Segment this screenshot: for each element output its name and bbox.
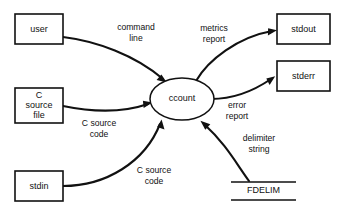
node-stdin[interactable]: stdin xyxy=(15,171,63,201)
node-c-source-file-label-line3: file xyxy=(33,110,45,120)
node-stdout-label: stdout xyxy=(291,24,316,34)
flow-c-source-code-file-label: C source code xyxy=(82,118,117,139)
flow-error-report xyxy=(211,76,275,99)
node-c-source-file-label-line2: source xyxy=(25,100,52,110)
flow-command-line xyxy=(63,37,167,82)
flow-c-source-code-file-label-line2: code xyxy=(90,129,109,139)
node-stdin-label: stdin xyxy=(29,181,48,191)
node-fdelim-label: FDELIM xyxy=(247,185,280,195)
flow-c-source-code-stdin-label-line2: code xyxy=(145,176,164,186)
flow-c-source-code-file xyxy=(63,101,153,111)
flow-command-line-path xyxy=(63,37,163,79)
dfd-diagram: user C source file stdin ccount stdout s… xyxy=(0,0,339,214)
flow-c-source-code-stdin-label-line1: C source xyxy=(137,165,172,175)
flow-delimiter-string-label-line2: string xyxy=(248,144,269,154)
node-user[interactable]: user xyxy=(15,14,63,44)
flow-c-source-code-stdin-label: C source code xyxy=(137,165,172,186)
node-user-label: user xyxy=(30,24,48,34)
flow-error-report-path xyxy=(211,79,271,99)
node-stderr[interactable]: stderr xyxy=(277,61,330,91)
node-ccount-label: ccount xyxy=(169,93,196,103)
flow-metrics-report-label: metrics report xyxy=(200,23,228,44)
flow-metrics-report-arrowhead xyxy=(268,28,277,35)
node-stderr-label: stderr xyxy=(292,71,315,81)
flow-c-source-code-file-label-line1: C source xyxy=(82,118,117,128)
node-ccount[interactable]: ccount xyxy=(150,78,214,120)
flow-error-report-arrowhead xyxy=(266,76,275,85)
node-stdout[interactable]: stdout xyxy=(277,14,330,44)
node-c-source-file[interactable]: C source file xyxy=(15,88,63,123)
flow-delimiter-string-label-line1: delimiter xyxy=(243,133,276,143)
flow-command-line-label-line2: line xyxy=(129,33,143,43)
flow-command-line-label-line1: command xyxy=(117,22,155,32)
flow-c-source-code-file-path xyxy=(63,104,148,111)
node-c-source-file-label-line1: C xyxy=(36,90,43,100)
dfd-canvas: user C source file stdin ccount stdout s… xyxy=(0,0,339,214)
flow-error-report-label-line2: report xyxy=(226,111,249,121)
flow-delimiter-string xyxy=(200,121,249,181)
flow-delimiter-string-label: delimiter string xyxy=(243,133,276,154)
flow-error-report-label-line1: error xyxy=(228,100,246,110)
flow-metrics-report-label-line2: report xyxy=(203,34,226,44)
flow-command-line-label: command line xyxy=(117,22,155,43)
flow-metrics-report-label-line1: metrics xyxy=(200,23,228,33)
flow-error-report-label: error report xyxy=(226,100,249,121)
node-fdelim-store[interactable]: FDELIM xyxy=(231,182,296,200)
